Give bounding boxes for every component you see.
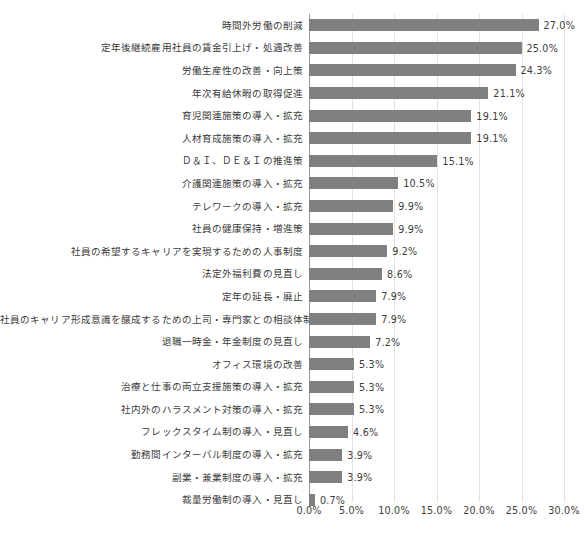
- value-label: 27.0%: [544, 20, 575, 31]
- bar-row: 時間外労働の削減27.0%: [0, 14, 584, 37]
- value-label: 19.1%: [476, 110, 507, 121]
- bar-row: 治療と仕事の両立支援施策の導入・拡充5.3%: [0, 376, 584, 399]
- x-tick-label: 10.0%: [378, 505, 409, 517]
- bar-track: 15.1%: [309, 150, 564, 173]
- bar-row: 人材育成施策の導入・拡充19.1%: [0, 127, 584, 150]
- value-label: 4.6%: [353, 426, 378, 437]
- bar: [309, 223, 393, 235]
- bar-track: 19.1%: [309, 104, 564, 127]
- x-axis-tick-labels: 0.0%5.0%10.0%15.0%20.0%25.0%30.0%: [309, 505, 564, 525]
- category-label: 副業・兼業制度の導入・拡充: [0, 472, 303, 483]
- value-label: 3.9%: [347, 449, 372, 460]
- bar-track: 21.1%: [309, 82, 564, 105]
- bar-row: 定年後継続雇用社員の賃金引上げ・処遇改善25.0%: [0, 37, 584, 60]
- bar: [309, 110, 471, 122]
- bar: [309, 471, 342, 483]
- bar-row: 社内外のハラスメント対策の導入・拡充5.3%: [0, 398, 584, 421]
- bar-row: 定年の延長・廃止7.9%: [0, 285, 584, 308]
- bar: [309, 19, 539, 31]
- bar-row: 育児関連施策の導入・拡充19.1%: [0, 104, 584, 127]
- bar-row: 年次有給休暇の取得促進21.1%: [0, 82, 584, 105]
- bar-track: 5.3%: [309, 376, 564, 399]
- bar-row: 介護関連施策の導入・拡充10.5%: [0, 172, 584, 195]
- category-label: 治療と仕事の両立支援施策の導入・拡充: [0, 381, 303, 392]
- bar-row: 退職一時金・年金制度の見直し7.2%: [0, 330, 584, 353]
- value-label: 10.5%: [403, 178, 434, 189]
- category-label: Ｄ＆Ｉ、ＤＥ＆Ｉの推進策: [0, 155, 303, 166]
- bar: [309, 132, 471, 144]
- value-label: 19.1%: [476, 133, 507, 144]
- bar: [309, 64, 516, 76]
- bar-track: 5.3%: [309, 353, 564, 376]
- category-label: フレックスタイム制の導入・見直し: [0, 426, 303, 437]
- category-label: 労働生産性の改善・向上策: [0, 65, 303, 76]
- x-tick-label: 0.0%: [296, 505, 321, 517]
- value-label: 0.7%: [320, 494, 345, 505]
- bar-row: 社員のキャリア形成意識を醸成するための上司・専門家との相談体制7.9%: [0, 308, 584, 331]
- bar: [309, 42, 522, 54]
- bar-row: 勤務間インターバル制度の導入・拡充3.9%: [0, 443, 584, 466]
- x-tick-label: 5.0%: [339, 505, 364, 517]
- value-label: 24.3%: [521, 65, 552, 76]
- value-label: 25.0%: [527, 42, 558, 53]
- bar-track: 3.9%: [309, 466, 564, 489]
- bar-row: フレックスタイム制の導入・見直し4.6%: [0, 421, 584, 444]
- category-label: 社員の希望するキャリアを実現するための人事制度: [0, 246, 303, 257]
- bar-chart: 時間外労働の削減27.0%定年後継続雇用社員の賃金引上げ・処遇改善25.0%労働…: [0, 0, 584, 533]
- value-label: 7.2%: [375, 336, 400, 347]
- bar: [309, 177, 398, 189]
- category-label: 定年の延長・廃止: [0, 291, 303, 302]
- x-tick-label: 20.0%: [463, 505, 494, 517]
- bar: [309, 313, 376, 325]
- bar: [309, 449, 342, 461]
- value-label: 5.3%: [359, 381, 384, 392]
- bar: [309, 268, 382, 280]
- x-tick-label: 30.0%: [548, 505, 579, 517]
- bar-track: 7.2%: [309, 330, 564, 353]
- x-tick-label: 15.0%: [421, 505, 452, 517]
- bar: [309, 87, 488, 99]
- bar-row: テレワークの導入・拡充9.9%: [0, 195, 584, 218]
- category-label: 定年後継続雇用社員の賃金引上げ・処遇改善: [0, 42, 303, 53]
- bar-track: 9.2%: [309, 240, 564, 263]
- bar: [309, 403, 354, 415]
- value-label: 5.3%: [359, 359, 384, 370]
- bar-rows: 時間外労働の削減27.0%定年後継続雇用社員の賃金引上げ・処遇改善25.0%労働…: [0, 14, 584, 511]
- category-label: 法定外福利費の見直し: [0, 268, 303, 279]
- bar-track: 19.1%: [309, 127, 564, 150]
- category-label: 介護関連施策の導入・拡充: [0, 178, 303, 189]
- category-label: 社員のキャリア形成意識を醸成するための上司・専門家との相談体制: [0, 314, 303, 325]
- bar-track: 4.6%: [309, 421, 564, 444]
- value-label: 9.9%: [398, 201, 423, 212]
- bar: [309, 245, 387, 257]
- category-label: 社内外のハラスメント対策の導入・拡充: [0, 404, 303, 415]
- bar-row: 社員の希望するキャリアを実現するための人事制度9.2%: [0, 240, 584, 263]
- value-label: 7.9%: [381, 291, 406, 302]
- bar-row: オフィス環境の改善5.3%: [0, 353, 584, 376]
- bar-row: Ｄ＆Ｉ、ＤＥ＆Ｉの推進策15.1%: [0, 150, 584, 173]
- value-label: 15.1%: [442, 155, 473, 166]
- bar-track: 9.9%: [309, 195, 564, 218]
- value-label: 9.9%: [398, 223, 423, 234]
- bar: [309, 290, 376, 302]
- bar: [309, 494, 315, 506]
- bar-track: 25.0%: [309, 37, 564, 60]
- x-tick-label: 25.0%: [506, 505, 537, 517]
- bar-track: 7.9%: [309, 285, 564, 308]
- bar-row: 社員の健康保持・増進策9.9%: [0, 217, 584, 240]
- bar: [309, 200, 393, 212]
- bar-track: 3.9%: [309, 443, 564, 466]
- bar-track: 7.9%: [309, 308, 564, 331]
- bar-track: 10.5%: [309, 172, 564, 195]
- bar-track: 5.3%: [309, 398, 564, 421]
- value-label: 21.1%: [493, 88, 524, 99]
- category-label: 人材育成施策の導入・拡充: [0, 133, 303, 144]
- bar-track: 9.9%: [309, 217, 564, 240]
- value-label: 9.2%: [392, 246, 417, 257]
- value-label: 5.3%: [359, 404, 384, 415]
- bar: [309, 358, 354, 370]
- category-label: 勤務間インターバル制度の導入・拡充: [0, 449, 303, 460]
- category-label: 裁量労働制の導入・見直し: [0, 494, 303, 505]
- category-label: 育児関連施策の導入・拡充: [0, 110, 303, 121]
- bar-row: 法定外福利費の見直し8.6%: [0, 263, 584, 286]
